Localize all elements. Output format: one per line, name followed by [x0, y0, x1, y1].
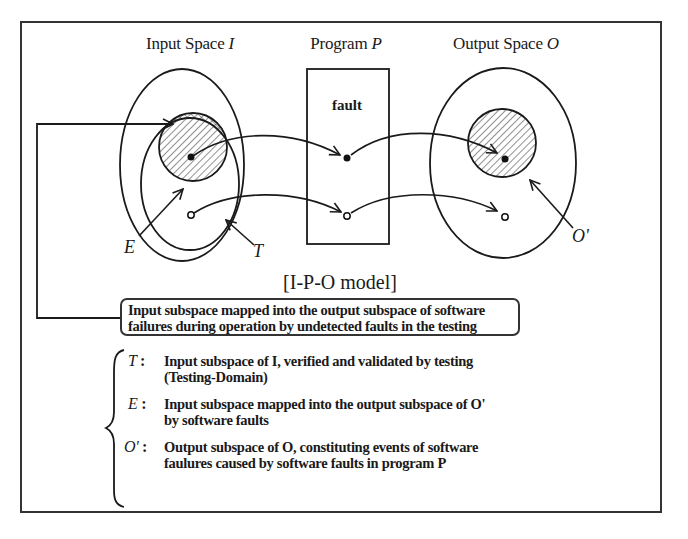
e-region-label: E: [124, 237, 135, 258]
fault-label: fault: [332, 97, 362, 114]
legend-symbol-e-text: E: [128, 395, 137, 412]
legend: T : Input subspace of I, verified and va…: [128, 353, 588, 482]
legend-o-prime-line-2: faulures caused by software faults in pr…: [164, 455, 588, 471]
legend-symbol-t: T :: [128, 353, 158, 369]
legend-item-t: T : Input subspace of I, verified and va…: [128, 353, 588, 385]
legend-colon: :: [141, 395, 146, 412]
o-prime-region-label: O': [572, 226, 589, 247]
output-space-symbol: O: [547, 34, 559, 53]
program-title: Program P: [310, 34, 381, 54]
legend-symbol-o-prime-text: O': [124, 438, 138, 455]
legend-t-line-2: (Testing-Domain): [164, 369, 588, 385]
input-space-title: Input Space I: [146, 34, 234, 54]
callout-line-2: failures during operation by undetected …: [128, 318, 512, 334]
legend-e-line-1: Input subspace mapped into the output su…: [164, 396, 588, 412]
ipo-model-diagram: Input Space I Program P Output Space O f…: [0, 0, 688, 539]
legend-o-prime-line-1: Output subspace of O, constituting event…: [164, 439, 588, 455]
legend-colon: :: [142, 438, 147, 455]
program-title-text: Program: [310, 34, 367, 53]
legend-e-line-2: by software faults: [164, 412, 588, 428]
legend-symbol-t-text: T: [128, 352, 136, 369]
input-space-symbol: I: [229, 34, 234, 53]
legend-symbol-o-prime: O' :: [124, 439, 154, 455]
callout-line-1: Input subspace mapped into the output su…: [128, 302, 512, 318]
legend-t-line-1: Input subspace of I, verified and valida…: [164, 353, 588, 369]
legend-item-o-prime: O' : Output subspace of O, constituting …: [124, 439, 588, 471]
output-space-title-text: Output Space: [453, 34, 543, 53]
legend-colon: :: [140, 352, 145, 369]
input-space-title-text: Input Space: [146, 34, 225, 53]
output-space-title: Output Space O: [453, 34, 559, 54]
t-region-label: T: [253, 241, 263, 262]
program-symbol: P: [372, 34, 382, 53]
legend-item-e: E : Input subspace mapped into the outpu…: [128, 396, 588, 428]
undetected-fault-callout: Input subspace mapped into the output su…: [120, 298, 520, 336]
legend-symbol-e: E :: [128, 396, 158, 412]
model-caption: [I-P-O model]: [283, 271, 397, 294]
